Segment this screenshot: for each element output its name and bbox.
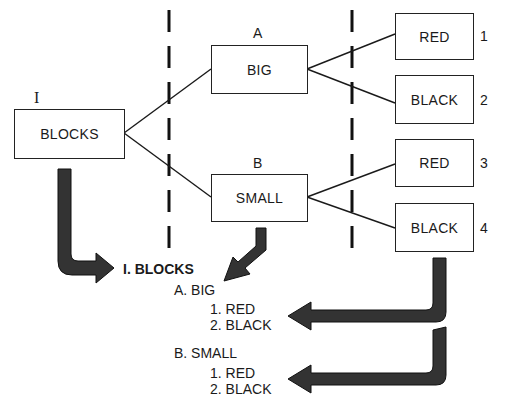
node-black-4-label: BLACK — [411, 220, 458, 236]
outline-item-b1: 1. RED — [210, 365, 255, 381]
leaf-number-2: 2 — [480, 92, 488, 108]
node-big-label: BIG — [247, 62, 272, 78]
node-black-4: BLACK — [395, 203, 474, 252]
node-red-3: RED — [395, 139, 474, 187]
outline-item-b2: 2. BLACK — [210, 381, 271, 397]
leaf-number-4: 4 — [480, 220, 488, 236]
node-red-1-label: RED — [419, 29, 449, 45]
node-red-3-label: RED — [419, 155, 449, 171]
node-small: SMALL — [211, 174, 308, 222]
arrow-small-to-outline — [224, 228, 266, 281]
arrow-to-small-items — [288, 327, 446, 393]
node-black-2: BLACK — [395, 75, 474, 124]
outline-root: I. BLOCKS — [123, 261, 194, 277]
node-b-letter: B — [253, 155, 262, 171]
node-red-1: RED — [395, 13, 474, 60]
node-blocks: BLOCKS — [14, 109, 125, 159]
node-big: BIG — [211, 45, 308, 94]
leaf-number-1: 1 — [480, 28, 488, 44]
leaf-number-3: 3 — [480, 155, 488, 171]
arrow-blocks-to-outline — [58, 169, 114, 283]
node-a-letter: A — [253, 25, 262, 41]
node-blocks-label: BLOCKS — [40, 126, 99, 142]
outline-item-a: A. BIG — [174, 282, 215, 298]
node-black-2-label: BLACK — [411, 92, 458, 108]
outline-item-a2: 2. BLACK — [210, 317, 271, 333]
arrow-to-big-items — [288, 258, 446, 330]
node-small-label: SMALL — [236, 190, 283, 206]
root-numeral: I — [34, 89, 39, 107]
outline-item-b: B. SMALL — [174, 345, 237, 361]
outline-item-a1: 1. RED — [210, 301, 255, 317]
